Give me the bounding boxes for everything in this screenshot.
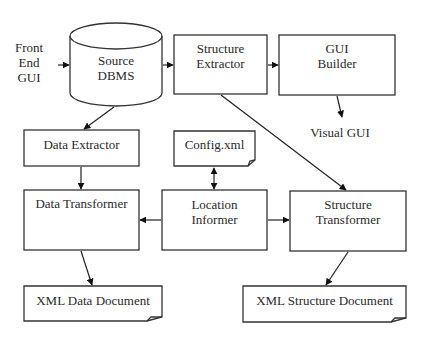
gui-builder-label: GUI Builder [279, 41, 395, 71]
source-dbms-label: Source DBMS [70, 53, 162, 83]
data-extractor-label: Data Extractor [24, 137, 139, 152]
visual-gui-label: Visual GUI [300, 125, 380, 140]
config-xml-label: Config.xml [174, 137, 255, 152]
arrow-structure-transformer-to-xml-structure-document [326, 252, 348, 285]
structure-extractor-label: Structure Extractor [174, 41, 267, 71]
structure-transformer-label: Structure Transformer [290, 197, 406, 227]
location-informer-label: Location Informer [162, 197, 267, 227]
data-transformer-label: Data Transformer [24, 196, 139, 211]
xml-structure-document-label: XML Structure Document [243, 293, 406, 308]
xml-data-document-label: XML Data Document [24, 293, 162, 308]
arrow-data-transformer-to-xml-data-document [81, 251, 92, 285]
front-end-gui-label: Front End GUI [10, 40, 48, 85]
arrow-dbms-to-data-extractor [84, 107, 114, 129]
arrow-gui-builder-to-visual-gui [337, 96, 342, 117]
